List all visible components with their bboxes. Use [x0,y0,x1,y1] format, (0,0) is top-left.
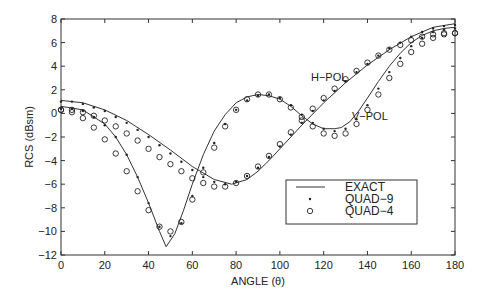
quad4-point [168,161,173,166]
y-tick-label: 8 [51,13,57,25]
quad9-point [454,27,456,29]
quad4-point [387,75,392,80]
quad9-point [169,235,171,237]
series-h-pol-exact [61,24,455,185]
quad9-point [60,100,62,102]
quad9-point [136,129,138,131]
quad9-point [322,128,324,130]
x-tick-label: 40 [142,259,154,271]
quad9-point [257,166,259,168]
quad9-point [344,128,346,130]
quad4-point [91,125,96,130]
axis-ticks: 020406080100120140160180−12−10−8−6−4−202… [38,13,464,271]
quad9-point [93,116,95,118]
quad9-point [235,109,237,111]
quad4-point [124,131,129,136]
quad9-point [443,25,445,27]
quad9-point [147,202,149,204]
series-h-pol-quad-4 [58,30,457,189]
quad9-point [333,130,335,132]
quad9-point [104,110,106,112]
exact-curve-line [61,24,455,185]
quad4-point [113,151,118,156]
y-tick-label: 2 [51,84,57,96]
y-tick-label: −8 [44,202,57,214]
quad4-point [321,131,326,136]
quad4-point [376,92,381,97]
quad9-point [82,110,84,112]
quad4-point [168,229,173,234]
quad9-point [279,97,281,99]
quad9-point [366,104,368,106]
quad9-point [158,225,160,227]
quad4-point [135,138,140,143]
quad9-point [213,181,215,183]
quad9-point [355,71,357,73]
quad9-point [421,37,423,39]
y-tick-label: 6 [51,37,57,49]
x-tick-label: 160 [402,259,420,271]
quad4-point [113,124,118,129]
quad4-point [343,131,348,136]
quad4-point [212,145,217,150]
quad9-point [246,99,248,101]
quad9-point [410,45,412,47]
quad9-point [191,169,193,171]
quad9-point [180,222,182,224]
quad9-point [432,27,434,29]
x-tick-label: 20 [99,259,111,271]
legend-label-quad4: QUAD−4 [345,204,394,218]
rcs-chart: 020406080100120140160180−12−10−8−6−4−202… [0,0,485,300]
quad4-point [179,169,184,174]
quad4-point [419,41,424,46]
legend-dot-quad9 [309,198,311,200]
series-h-pol-quad-9 [60,24,456,186]
quad9-point [169,152,171,154]
quad9-point [71,100,73,102]
quad4-point [135,189,140,194]
quad4-point [157,154,162,159]
quad4-point [430,35,435,40]
y-tick-label: −10 [38,225,57,237]
y-tick-label: −4 [44,155,57,167]
quad9-point [388,71,390,73]
quad9-point [125,122,127,124]
x-axis-label: ANGLE (θ) [231,275,285,287]
quad9-point [377,54,379,56]
quad9-point [202,166,204,168]
x-tick-label: 140 [358,259,376,271]
quad4-point [146,146,151,151]
quad9-point [136,176,138,178]
quad9-point [377,87,379,89]
quad9-point [180,161,182,163]
quad9-point [125,154,127,156]
x-tick-label: 80 [230,259,242,271]
quad4-point [354,121,359,126]
quad9-point [257,95,259,97]
quad9-point [202,176,204,178]
quad4-point [190,197,195,202]
quad4-point [201,180,206,185]
x-tick-label: 180 [446,259,464,271]
x-tick-label: 60 [186,259,198,271]
quad9-point [93,106,95,108]
quad9-point [246,175,248,177]
quad4-point [102,118,107,123]
quad4-point [332,133,337,138]
y-tick-label: 0 [51,107,57,119]
y-axis-label: RCS (dBsm) [23,106,35,168]
quad9-point [268,156,270,158]
y-tick-label: −2 [44,131,57,143]
quad9-point [454,24,456,26]
annotation-v-pol: V−POL [352,110,388,122]
x-tick-label: 100 [271,259,289,271]
quad4-point [146,207,151,212]
y-tick-label: −12 [38,249,57,261]
quad9-point [268,93,270,95]
quad9-point [115,116,117,118]
quad9-point [388,47,390,49]
quad9-point [82,103,84,105]
y-tick-label: 4 [51,60,57,72]
quad9-point [366,63,368,65]
quad4-point [212,184,217,189]
